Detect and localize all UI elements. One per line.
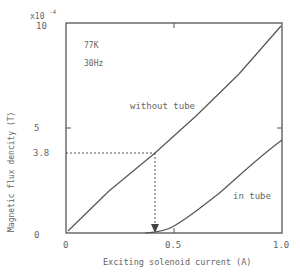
x-tick-label-05: 0.5 <box>165 240 181 250</box>
x-tick-label-10: 1.0 <box>273 240 289 250</box>
chart: x10 -4 10 5 3.8 0 77K 30Hz without tube … <box>0 0 300 273</box>
y-tick-label-5: 5 <box>34 123 39 133</box>
y-tick-label-10: 10 <box>36 21 47 31</box>
ref-label: 3.8 <box>33 148 49 158</box>
y-axis-label: Magnetic flux dencity (T) <box>7 112 16 232</box>
x-tick-label-0: 0 <box>63 240 68 250</box>
freq-label: 30Hz <box>84 59 103 68</box>
x-axis-label: Exciting solenoid current (A) <box>103 257 251 267</box>
y-tick-label-0: 0 <box>34 230 39 240</box>
y-multiplier: x10 <box>30 12 45 21</box>
y-multiplier-exp: -4 <box>49 8 57 15</box>
without-tube-label: without tube <box>130 101 195 111</box>
in-tube-label: in tube <box>233 191 271 201</box>
temp-label: 77K <box>84 41 99 50</box>
series-in-tube <box>145 140 282 233</box>
